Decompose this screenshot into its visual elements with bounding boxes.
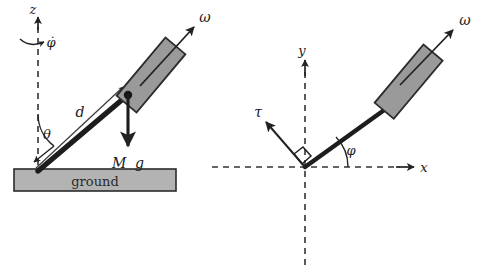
z-axis-label: z (29, 2, 37, 17)
precession-arc-arrow (20, 39, 44, 44)
torque-label: τ (254, 104, 262, 120)
precession-rate-label: φ̇ (46, 35, 56, 50)
distance-d-label: d (76, 104, 85, 120)
ground-label: ground (71, 174, 118, 189)
theta-angle-label: θ (43, 127, 51, 142)
weight-force-label: M g (111, 155, 144, 171)
right-angle-marker (294, 147, 311, 164)
y-axis-label: y (297, 43, 306, 58)
weight-gravity-symbol: g (135, 155, 144, 171)
disk-top-view (375, 45, 443, 119)
omega-label-top-view: ω (459, 12, 471, 28)
phi-angle-label: φ (346, 143, 356, 158)
side-view-panel: z φ̇ θ ground d (14, 2, 211, 191)
top-view-panel: x y τ φ ω (212, 12, 471, 265)
diagram-canvas: z φ̇ θ ground d (0, 0, 482, 277)
x-axis-label: x (420, 160, 428, 175)
weight-mass-symbol: M (111, 155, 127, 171)
physics-figure: z φ̇ θ ground d (0, 0, 482, 277)
omega-label-side-view: ω (199, 9, 211, 25)
